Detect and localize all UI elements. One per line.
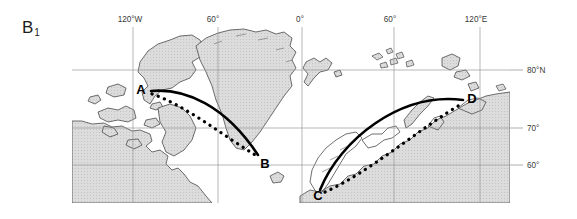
longitude-labels: 120°W 60° 0° 60° 120°E	[118, 15, 488, 24]
point-label-c: C	[313, 188, 323, 203]
point-label-a: A	[136, 82, 146, 97]
lon-label-0: 120°W	[118, 15, 143, 24]
panel-label-letter: B	[22, 18, 34, 37]
point-label-b: B	[260, 156, 269, 171]
lat-label-2: 60°	[527, 161, 539, 170]
lat-label-0: 80°N	[527, 66, 545, 75]
lon-label-4: 120°E	[465, 15, 488, 24]
latitude-labels: 80°N 70° 60°	[510, 66, 545, 170]
panel-label-subscript: 1	[34, 27, 40, 38]
lon-label-1: 60°	[207, 15, 219, 24]
lon-label-3: 60°	[384, 15, 396, 24]
figure-panel-b1: B1	[0, 0, 577, 219]
arctic-route-map: A B C D 120°W 60° 0° 60° 120°E 80°N 70° …	[0, 0, 577, 219]
lat-label-1: 70°	[527, 124, 539, 133]
lon-label-2: 0°	[296, 15, 304, 24]
point-label-d: D	[467, 91, 476, 106]
panel-label: B1	[22, 18, 40, 38]
